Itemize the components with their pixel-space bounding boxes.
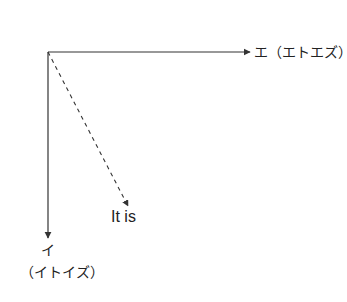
diagonal-label: It is xyxy=(111,209,136,225)
x-axis-label: エ（エトエズ） xyxy=(254,44,347,60)
y-axis-label: イ xyxy=(41,242,55,258)
y-axis-reading: （イトイズ） xyxy=(20,264,104,280)
diagonal-dashed-arrow xyxy=(48,52,128,206)
